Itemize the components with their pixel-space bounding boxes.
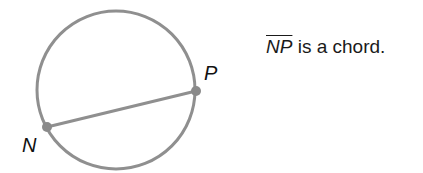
label-n: N bbox=[22, 134, 36, 157]
caption-text: is a chord. bbox=[292, 36, 385, 57]
segment-np: NP bbox=[266, 36, 292, 57]
point-p bbox=[191, 86, 201, 96]
circle bbox=[37, 11, 195, 169]
caption: NP is a chord. bbox=[266, 36, 385, 58]
chord-np bbox=[47, 91, 196, 127]
point-n bbox=[42, 122, 52, 132]
chord-diagram bbox=[0, 0, 423, 173]
label-p: P bbox=[204, 62, 217, 85]
